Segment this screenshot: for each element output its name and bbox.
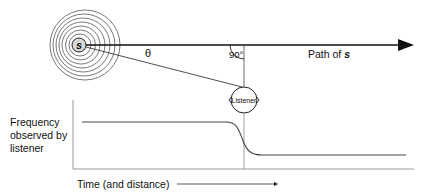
path-label: Path of s: [308, 48, 350, 60]
source-s: s: [72, 38, 86, 52]
theta-label: θ: [145, 47, 151, 59]
source-listener-line: [86, 47, 242, 87]
y-axis-label-line-2: observed by: [10, 129, 68, 141]
y-axis-label-line-1: Frequency: [10, 116, 60, 128]
y-axis-label: Frequency observed by listener: [10, 116, 70, 154]
right-angle-label: 90°: [229, 49, 244, 60]
path-label-var: s: [344, 48, 350, 60]
listener-label: Listener: [232, 97, 258, 104]
arrowhead-icon: [398, 39, 414, 51]
y-axis-label-line-3: listener: [10, 142, 44, 154]
x-axis-label: Time (and distance): [77, 178, 169, 190]
source-label: s: [76, 39, 82, 51]
time-arrow-icon: [274, 182, 278, 186]
doppler-diagram: s Path of s θ 90° Listener Frequency obs…: [0, 0, 424, 196]
path-label-prefix: Path of: [308, 48, 344, 60]
listener: Listener: [229, 87, 259, 113]
path-line: [86, 39, 414, 51]
